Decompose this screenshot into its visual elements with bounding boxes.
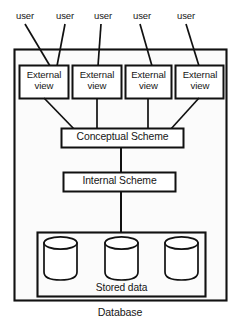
external-view-label-4-line1: External bbox=[183, 69, 217, 80]
external-view-label-2-line1: External bbox=[80, 69, 114, 80]
user-label-4: user bbox=[124, 11, 160, 21]
conceptual-scheme-label: Conceptual Scheme bbox=[62, 132, 183, 143]
external-view-label-1: External view bbox=[20, 70, 68, 91]
user-label-3: user bbox=[85, 11, 121, 21]
diagram-vector-layer bbox=[0, 0, 237, 330]
external-view-label-1-line1: External bbox=[27, 69, 61, 80]
database-caption: Database bbox=[59, 307, 181, 318]
external-view-label-3-line2: view bbox=[139, 80, 158, 91]
external-view-label-2-line2: view bbox=[88, 80, 107, 91]
user-label-2: user bbox=[47, 11, 83, 21]
three-level-database-architecture-diagram: user user user user user External view E… bbox=[0, 0, 237, 330]
internal-scheme-label: Internal Scheme bbox=[64, 176, 175, 187]
external-view-label-4-line2: view bbox=[191, 80, 210, 91]
external-view-label-2: External view bbox=[73, 70, 121, 91]
external-view-label-3-line1: External bbox=[131, 69, 165, 80]
user-label-1: user bbox=[7, 11, 43, 21]
stored-data-label: Stored data bbox=[38, 283, 205, 293]
external-view-label-3: External view bbox=[125, 70, 172, 91]
database-cylinder-2 bbox=[105, 237, 138, 280]
user-label-5: user bbox=[168, 11, 204, 21]
database-cylinder-3 bbox=[165, 237, 198, 280]
database-cylinder-1 bbox=[44, 237, 77, 280]
external-view-label-4: External view bbox=[176, 70, 224, 91]
external-view-label-1-line2: view bbox=[35, 80, 54, 91]
